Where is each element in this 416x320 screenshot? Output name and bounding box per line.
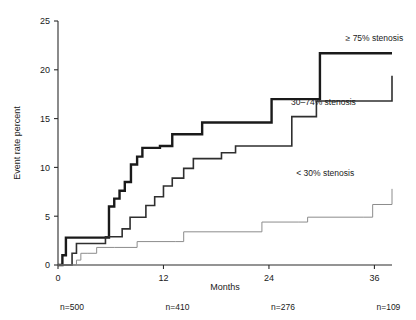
y-tick-label: 20 bbox=[40, 65, 50, 75]
y-tick-label: 0 bbox=[45, 260, 50, 270]
at-risk-label-2: n=276 bbox=[271, 302, 295, 312]
y-tick-label: 5 bbox=[45, 212, 50, 222]
at-risk-label-0: n=500 bbox=[60, 302, 84, 312]
y-tick-label: 15 bbox=[40, 114, 50, 124]
chart-root: 0510152025 0122436 Event rate percent Mo… bbox=[0, 0, 416, 320]
at-risk-label-1: n=410 bbox=[166, 302, 190, 312]
x-tick-label: 36 bbox=[369, 273, 379, 283]
at-risk-label-3: n=109 bbox=[376, 302, 400, 312]
y-tick-label: 10 bbox=[40, 163, 50, 173]
series-label-2: < 30% stenosis bbox=[296, 168, 354, 178]
series-label-1: 30–74% stenosis bbox=[291, 97, 356, 107]
y-tick-label: 25 bbox=[40, 16, 50, 26]
y-axis-title: Event rate percent bbox=[12, 106, 22, 180]
chart-background bbox=[0, 0, 416, 320]
x-axis-title: Months bbox=[210, 282, 240, 292]
x-tick-label: 24 bbox=[264, 273, 274, 283]
kaplan-meier-chart: 0510152025 0122436 Event rate percent Mo… bbox=[0, 0, 416, 320]
x-tick-label: 12 bbox=[158, 273, 168, 283]
x-tick-label: 0 bbox=[55, 273, 60, 283]
series-label-0: ≥ 75% stenosis bbox=[346, 33, 404, 43]
